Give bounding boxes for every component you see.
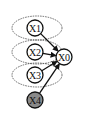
node-x1: X1 bbox=[27, 20, 43, 36]
edge-x3-to-x0 bbox=[42, 61, 57, 70]
node-label: X3 bbox=[29, 70, 41, 81]
node-x3: X3 bbox=[27, 67, 43, 83]
edge-x2-to-x0 bbox=[43, 53, 56, 55]
node-label: X4 bbox=[29, 95, 41, 106]
graphical-model-diagram: X1X2X3X4X0 bbox=[0, 0, 86, 120]
node-label: X1 bbox=[29, 23, 41, 34]
node-label: X0 bbox=[58, 52, 70, 63]
node-x0: X0 bbox=[56, 49, 72, 65]
node-x2: X2 bbox=[27, 44, 43, 60]
node-label: X2 bbox=[29, 47, 41, 58]
node-x4: X4 bbox=[27, 92, 43, 108]
